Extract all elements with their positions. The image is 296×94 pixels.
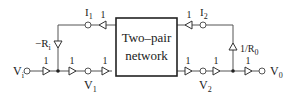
label-i2: I2 [200,6,208,21]
arrow-left-icon [185,21,192,29]
label-i1: I1 [85,6,93,21]
gain-label: 1 [44,55,49,66]
arrow-right-icon [102,67,109,75]
node-i2 [200,22,206,28]
label-v2: V2 [199,78,212,94]
arrow-right-icon [69,67,76,75]
arrow-up-icon [229,43,237,50]
node-v2 [200,68,206,74]
block-label-line2: network [125,48,168,63]
arrow-down-icon [54,41,62,48]
junction-left-dot [56,69,60,73]
gain-label: 1 [186,55,191,66]
node-i1 [85,22,91,28]
label-v1: V1 [84,78,97,94]
junction-right-dot [231,69,235,73]
arrow-right-icon [43,67,50,75]
block-label-line1: Two–pair [122,30,172,45]
label-v0: V0 [270,64,283,80]
gain-label: 1 [101,9,106,20]
gain-label: 1 [70,55,75,66]
arrow-right-icon [185,67,192,75]
arrow-right-icon [213,67,220,75]
node-v0 [259,68,265,74]
gain-label: 1 [187,9,192,20]
feedback-left-label: −Ri [35,37,52,52]
arrow-right-icon [245,67,252,75]
gain-label: 1 [103,55,108,66]
node-vi [24,68,30,74]
signal-flow-diagram: Two–pair network 1 1 1 1 1 1 1 1 −Ri 1/R… [0,0,296,94]
gain-label: 1 [246,55,251,66]
label-vi: Vi [13,64,25,80]
two-pair-network-block [116,18,177,76]
gain-label: 1 [214,55,219,66]
node-v1 [85,68,91,74]
arrow-left-icon [99,21,106,29]
